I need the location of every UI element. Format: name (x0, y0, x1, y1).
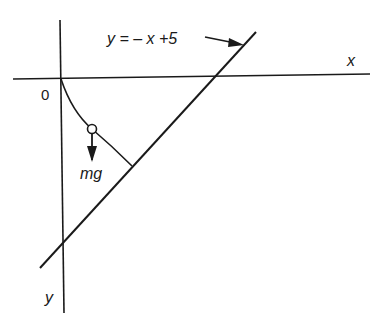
diagram-canvas: y = – x +5 x 0 mg y (0, 0, 388, 321)
equation-pointer-arrowhead-icon (228, 38, 244, 47)
y-axis-line (60, 20, 64, 313)
trajectory-curve (61, 79, 132, 166)
diagram-svg (0, 0, 388, 321)
incline-line (40, 32, 256, 268)
origin-label: 0 (41, 87, 49, 102)
x-axis-label: x (347, 53, 355, 69)
line-equation-label: y = – x +5 (107, 31, 177, 47)
particle (88, 125, 97, 134)
y-axis-label: y (45, 290, 53, 306)
x-axis-line (13, 74, 370, 79)
force-label: mg (80, 166, 102, 182)
gravity-arrowhead-icon (87, 146, 97, 162)
